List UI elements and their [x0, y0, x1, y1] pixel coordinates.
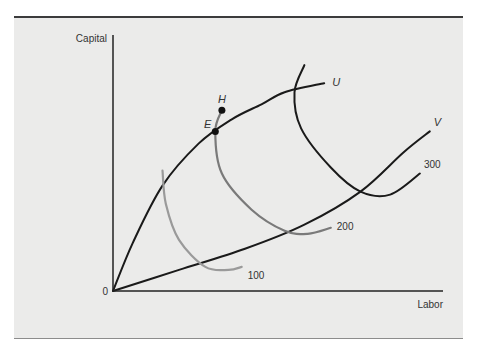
point-e: [212, 128, 219, 135]
curve-label-300: 300: [424, 159, 441, 170]
point-label-e: E: [204, 118, 212, 130]
expansion-path-u: [113, 83, 324, 291]
curve-label-u: U: [332, 76, 340, 88]
point-h: [218, 107, 225, 114]
point-label-h: H: [218, 93, 226, 105]
chart-svg: Capital Labor 0 UV100200300EH: [0, 0, 477, 356]
expansion-path-v: [113, 131, 430, 291]
curves-layer: [113, 65, 430, 291]
curve-label-200: 200: [337, 221, 354, 232]
x-axis-label: Labor: [417, 299, 443, 310]
origin-label: 0: [102, 286, 108, 297]
isoquant-200: [215, 110, 330, 234]
curve-label-100: 100: [248, 270, 265, 281]
y-axis-label: Capital: [76, 33, 107, 44]
curve-label-v: V: [434, 116, 443, 128]
